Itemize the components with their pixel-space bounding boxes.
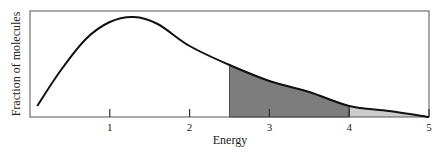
distribution-chart: 12345 Energy Fraction of molecules [0,0,447,152]
shaded-regions [230,65,430,117]
x-tick-label-4: 4 [346,121,352,133]
x-tick-label-3: 3 [267,121,273,133]
y-axis-label: Fraction of molecules [9,11,23,116]
x-axis-label: Energy [213,133,247,147]
x-tick-label-1: 1 [107,121,113,133]
x-tick-label-5: 5 [426,121,432,133]
x-tick-label-2: 2 [187,121,193,133]
